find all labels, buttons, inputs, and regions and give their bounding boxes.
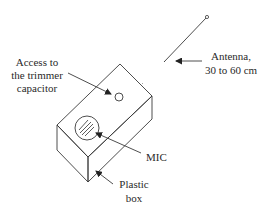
mic-circle-icon — [75, 116, 99, 140]
trimmer-label-line2: the trimmer — [11, 69, 63, 81]
antenna — [142, 15, 209, 84]
box-label: Plastic box — [119, 178, 148, 204]
box-arrow — [96, 171, 113, 184]
antenna-tip-icon — [205, 15, 208, 18]
antenna-label-line2: 30 to 60 cm — [205, 64, 258, 76]
mic-label: MIC — [146, 151, 167, 163]
antenna-label: Antenna, 30 to 60 cm — [205, 50, 258, 76]
antenna-label-line1: Antenna, — [211, 50, 251, 62]
transmitter-diagram: Access to the trimmer capacitor Antenna,… — [0, 0, 268, 209]
trimmer-label-line3: capacitor — [17, 82, 58, 94]
trimmer-label-line1: Access to — [16, 56, 59, 68]
trimmer-arrow — [68, 73, 111, 94]
box-label-line1: Plastic — [119, 178, 148, 190]
plastic-box — [57, 64, 152, 182]
box-top-face — [57, 64, 152, 157]
box-right-face — [88, 96, 152, 182]
trimmer-label: Access to the trimmer capacitor — [11, 56, 63, 94]
microphone — [75, 116, 99, 140]
box-label-line2: box — [126, 192, 143, 204]
trimmer-hole-icon — [115, 93, 123, 101]
